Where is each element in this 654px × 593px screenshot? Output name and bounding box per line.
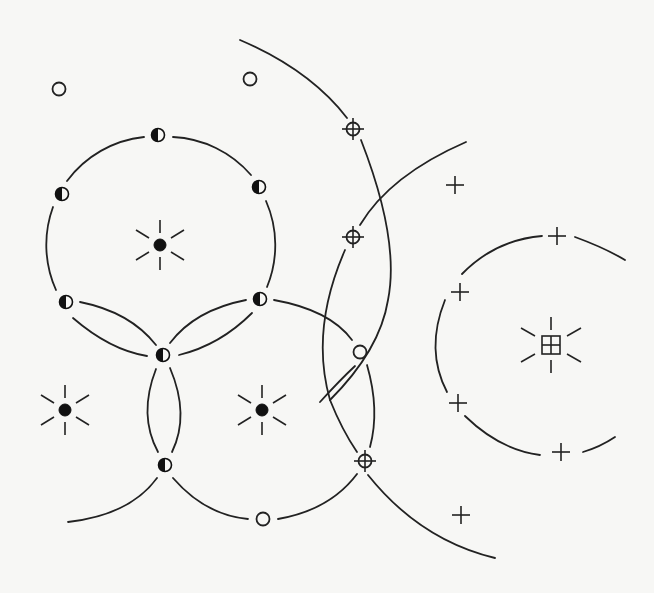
half-filled-circle-icon xyxy=(159,459,172,472)
plus-icon xyxy=(451,283,469,301)
crosshair-points xyxy=(342,118,376,472)
plus-icon xyxy=(446,176,464,194)
star-icon xyxy=(136,220,184,270)
open-circle-icon xyxy=(244,73,257,86)
half-filled-circle-icon xyxy=(157,349,170,362)
diagram-canvas xyxy=(0,0,654,593)
plus-icon xyxy=(548,227,566,245)
plus-icon xyxy=(449,394,467,412)
circle-around-star-d xyxy=(435,236,625,455)
half-filled-points xyxy=(56,129,267,472)
half-filled-circle-icon xyxy=(254,293,267,306)
crosshair-circle-icon xyxy=(354,450,376,472)
large-arc-1 xyxy=(240,40,391,400)
half-filled-circle-icon xyxy=(152,129,165,142)
open-circle-icon xyxy=(53,83,66,96)
plus-icon xyxy=(552,443,570,461)
diagram-svg xyxy=(0,0,654,593)
crosshair-circle-icon xyxy=(342,118,364,140)
boxed-star-icon xyxy=(521,317,581,373)
open-circle-icon xyxy=(354,346,367,359)
intersection-arcs xyxy=(68,300,374,522)
open-points xyxy=(53,73,367,526)
half-filled-circle-icon xyxy=(56,188,69,201)
half-filled-circle-icon xyxy=(60,296,73,309)
large-arc-2 xyxy=(323,142,495,558)
open-circle-icon xyxy=(257,513,270,526)
plus-icon xyxy=(452,506,470,524)
half-filled-circle-icon xyxy=(253,181,266,194)
crosshair-circle-icon xyxy=(342,226,364,248)
star-icon xyxy=(238,385,286,435)
star-icon xyxy=(41,385,89,435)
